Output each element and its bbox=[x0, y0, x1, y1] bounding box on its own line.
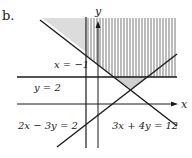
label-3x-4y-12: 3x + 4y = 12 bbox=[112, 121, 178, 131]
label-x-equals-neg1: x = −1 bbox=[54, 60, 89, 70]
x-axis-label: x bbox=[181, 99, 187, 110]
label-2x-3y-2: 2x − 3y = 2 bbox=[18, 121, 78, 131]
label-y-equals-2: y = 2 bbox=[34, 83, 61, 93]
shaded-region-left bbox=[42, 18, 86, 52]
graph-canvas bbox=[0, 0, 192, 158]
x-axis-arrow-icon bbox=[171, 102, 178, 107]
y-axis-label: y bbox=[95, 6, 101, 17]
shaded-region-small bbox=[114, 77, 148, 89]
inequality-graph: b. y x x = −1 y = 2 2x − 3y = 2 3x + 4y … bbox=[0, 0, 192, 158]
part-label: b. bbox=[2, 9, 14, 22]
